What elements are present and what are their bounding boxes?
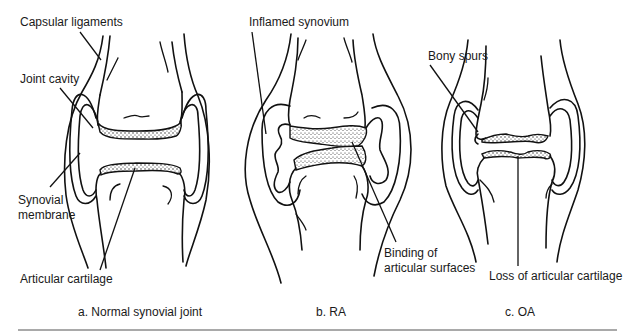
- caption-oa: c. OA: [505, 305, 535, 319]
- ra-outer-right: [373, 34, 411, 276]
- label-binding-line2: articular surfaces: [384, 261, 475, 275]
- oa-femur-right: [541, 56, 551, 136]
- ra-synovium-right: [366, 118, 388, 184]
- joint-diagram: Capsular ligaments Joint cavity Synovial…: [0, 0, 635, 333]
- synovial-loop-left-inner: [78, 105, 98, 196]
- lower-articular-cartilage: [100, 163, 181, 175]
- ra-tibia-inner-right: [354, 176, 357, 198]
- bone-upper-left-inner: [107, 58, 118, 80]
- leader-capsular-ligaments: [80, 32, 101, 60]
- label-synovial-membrane-line2: membrane: [18, 208, 76, 222]
- label-articular-cartilage: Articular cartilage: [20, 272, 113, 286]
- label-binding-line1: Binding of: [384, 246, 438, 260]
- caption-normal-joint: a. Normal synovial joint: [78, 305, 203, 319]
- tibia-inner-left: [110, 184, 120, 200]
- panel-oa-joint: Bony spurs Loss of articular cartilage c…: [428, 40, 623, 319]
- panel-normal-joint: Capsular ligaments Joint cavity Synovial…: [18, 15, 209, 319]
- tibia-head-right: [179, 173, 185, 262]
- label-loss-of-cartilage: Loss of articular cartilage: [489, 269, 623, 283]
- leader-inflamed-synovium: [252, 32, 266, 134]
- leader-joint-cavity: [60, 88, 93, 128]
- ra-femur-left: [289, 38, 299, 125]
- oa-synovium-right-inner: [550, 109, 572, 186]
- femur-head: [97, 92, 182, 133]
- bone-upper-right-inner: [160, 42, 168, 72]
- bone-upper-right-outline: [172, 42, 182, 92]
- label-synovial-membrane-line1: Synovial: [18, 193, 63, 207]
- ra-upper-cartilage: [290, 126, 367, 147]
- tibia-inner-right: [163, 186, 171, 204]
- label-joint-cavity: Joint cavity: [20, 72, 79, 86]
- ra-growth-line-upper-right: [344, 112, 358, 118]
- ra-tibia-crack: [296, 214, 306, 230]
- ra-tibia-right: [360, 166, 368, 250]
- caption-ra: b. RA: [316, 305, 346, 319]
- ra-outer-left: [245, 34, 291, 283]
- label-inflamed-synovium: Inflamed synovium: [249, 15, 349, 29]
- leader-articular-cartilage: [100, 168, 135, 270]
- capsule-outer-right: [184, 34, 209, 266]
- oa-tibia-left: [477, 158, 488, 244]
- leader-binding-articular: [352, 142, 396, 242]
- ra-growth-line-upper-left: [304, 116, 320, 118]
- growth-line-upper: [124, 115, 149, 118]
- label-capsular-ligaments: Capsular ligaments: [20, 15, 123, 29]
- oa-outer-left: [442, 40, 476, 262]
- oa-upper-cartilage: [482, 134, 548, 143]
- oa-synovium-left-inner: [460, 111, 478, 186]
- ra-tibia-left: [289, 168, 302, 250]
- ra-femur-right-inner: [344, 38, 352, 62]
- synovial-loop-right-outer: [182, 94, 208, 203]
- ra-synovium-left-outer: [262, 104, 300, 205]
- tibia-head: [96, 174, 106, 268]
- ra-synovium-left: [274, 124, 290, 192]
- label-bony-spurs: Bony spurs: [428, 49, 488, 63]
- oa-synovium-left-outer: [452, 101, 478, 194]
- upper-articular-cartilage: [98, 122, 181, 139]
- ra-femur-left-inner: [298, 40, 306, 60]
- oa-lower-cartilage: [482, 151, 551, 159]
- oa-tibia-right: [546, 156, 555, 248]
